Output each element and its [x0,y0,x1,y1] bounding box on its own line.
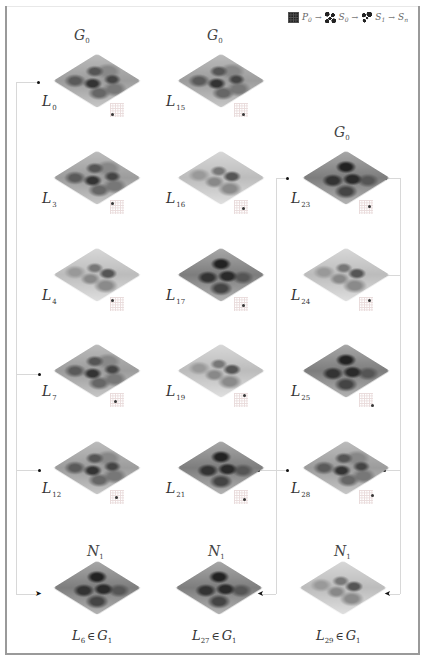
arrow-icon: → [315,13,322,22]
position-grid-icon [110,200,124,214]
position-grid-icon [359,200,373,214]
arrow-icon: → [388,13,395,22]
level-label: L16 [166,190,185,209]
output-label-1: L27∈G1 [192,628,237,645]
terrain-map [294,560,384,597]
output-label-0: L6∈G1 [72,628,112,645]
terrain-map [48,343,138,380]
level-tile-L23: L23 [287,140,407,235]
connector-left-top [16,82,38,83]
position-grid-icon [234,490,248,504]
level-tile-L25: L25 [287,333,407,428]
legend-sn: Sn [398,12,408,23]
level-label: L23 [291,190,310,209]
level-tile-L4: L4 [38,237,158,332]
output-header-0: N1 [87,543,104,561]
position-grid-icon [110,393,124,407]
level-tile-L17: L17 [162,237,282,332]
level-tile-L3: L3 [38,140,158,235]
legend-p0: P0 [302,12,312,23]
level-tile-L15: L15 [162,43,282,138]
level-label: L15 [166,93,185,112]
output-tile-L6 [38,560,158,620]
terrain-map [172,343,262,380]
position-grid-icon [359,490,373,504]
terrain-map [297,440,387,477]
connector-left-mid2 [16,470,38,471]
connector-left [16,82,17,594]
terrain-map [297,247,387,284]
level-label: L21 [166,480,185,499]
output-tile-L27 [160,560,280,620]
connector-left-mid [16,374,38,375]
level-tile-L28: L28 [287,430,407,525]
position-grid-icon [359,297,373,311]
terrain-map [172,440,262,477]
position-grid-icon [110,297,124,311]
terrain-map [297,150,387,187]
sparse-pattern-icon [361,12,372,23]
terrain-map [297,343,387,380]
level-label: L17 [166,287,185,306]
level-tile-L16: L16 [162,140,282,235]
level-tile-L0: L0 [38,43,158,138]
terrain-map [170,560,260,597]
sparse-pattern-icon [325,12,336,23]
position-grid-icon [234,393,248,407]
terrain-map [48,560,138,597]
position-grid-icon [110,103,124,117]
arrow-icon: → [352,13,359,22]
level-label: L24 [291,287,310,306]
position-grid-icon [234,103,248,117]
output-tile-L29 [284,560,404,620]
position-grid-icon [359,393,373,407]
legend: P0 → S0 → S1 → Sn [288,8,408,26]
terrain-map [48,53,138,90]
level-label: L7 [42,383,57,402]
terrain-map [48,150,138,187]
level-tile-L24: L24 [287,237,407,332]
level-tile-L21: L21 [162,430,282,525]
level-tile-L12: L12 [38,430,158,525]
terrain-map [172,150,262,187]
terrain-map [48,247,138,284]
level-label: L4 [42,287,57,306]
position-grid-icon [234,200,248,214]
terrain-map [48,440,138,477]
output-header-2: N1 [334,543,351,561]
level-label: L19 [166,383,185,402]
position-grid-icon [234,297,248,311]
level-label: L0 [42,93,57,112]
level-tile-L19: L19 [162,333,282,428]
terrain-map [172,247,262,284]
solid-grid-icon [288,12,299,23]
level-tile-L7: L7 [38,333,158,428]
connector-left-bottom [16,594,36,595]
output-label-2: L29∈G1 [316,628,361,645]
level-label: L3 [42,190,57,209]
level-label: L25 [291,383,310,402]
terrain-map [172,53,262,90]
level-label: L12 [42,480,61,499]
legend-s0: S0 [339,12,349,23]
legend-s1: S1 [375,12,385,23]
output-header-1: N1 [208,543,225,561]
level-label: L28 [291,480,310,499]
position-grid-icon [110,490,124,504]
